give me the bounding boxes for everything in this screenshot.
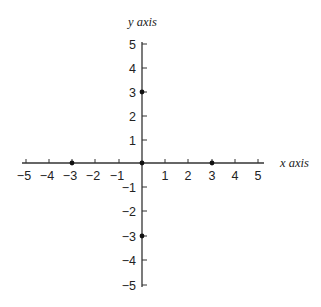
svg-text:1: 1 <box>129 134 136 148</box>
svg-text:−4: −4 <box>40 169 54 183</box>
y-tick-labels: 5 4 3 2 1 −1 −2 −3 −4 −5 <box>122 38 136 293</box>
svg-text:3: 3 <box>209 169 216 183</box>
svg-text:1: 1 <box>162 169 169 183</box>
svg-text:5: 5 <box>129 38 136 52</box>
point-0-3 <box>140 90 145 95</box>
svg-text:−2: −2 <box>122 205 136 219</box>
point-3-0 <box>210 161 215 166</box>
svg-text:2: 2 <box>129 110 136 124</box>
svg-text:−2: −2 <box>86 169 100 183</box>
x-axis-title: x axis <box>279 156 309 170</box>
svg-text:4: 4 <box>232 169 239 183</box>
svg-text:5: 5 <box>255 169 262 183</box>
point-neg3-0 <box>70 161 75 166</box>
svg-text:4: 4 <box>129 62 136 76</box>
svg-text:−5: −5 <box>17 169 31 183</box>
svg-text:−3: −3 <box>63 169 77 183</box>
svg-text:−5: −5 <box>122 279 136 293</box>
coordinate-plane: −5 −4 −3 −2 −1 1 2 3 4 5 5 4 3 2 1 −1 −2… <box>0 0 321 307</box>
point-origin <box>140 161 145 166</box>
svg-text:−4: −4 <box>122 254 136 268</box>
svg-text:−1: −1 <box>122 181 136 195</box>
x-tick-labels: −5 −4 −3 −2 −1 1 2 3 4 5 <box>17 169 262 183</box>
point-0-neg3 <box>140 234 145 239</box>
svg-text:2: 2 <box>185 169 192 183</box>
svg-text:3: 3 <box>129 86 136 100</box>
y-axis-title: y axis <box>126 15 157 29</box>
svg-text:−3: −3 <box>122 230 136 244</box>
